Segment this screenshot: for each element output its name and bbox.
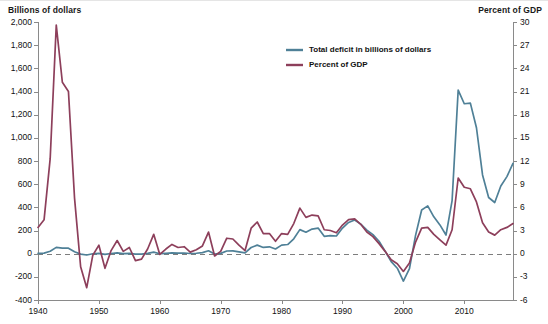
legend-item-label: Total deficit in billions of dollars xyxy=(309,45,431,54)
x-axis-tick-label: 1990 xyxy=(322,306,362,316)
y-axis-tick-label: 1,800 xyxy=(11,40,32,50)
y2-axis-tick-label: -3 xyxy=(520,271,528,281)
y2-axis-tick-label: 12 xyxy=(520,156,529,166)
x-axis-tick-label: 1960 xyxy=(140,306,180,316)
y-axis-tick-label: 1,200 xyxy=(11,109,32,119)
y-axis-tick-label: 1,400 xyxy=(11,86,32,96)
x-axis-tick-label: 1980 xyxy=(262,306,302,316)
y2-axis-tick-label: 3 xyxy=(520,225,525,235)
x-axis-tick-label: 2010 xyxy=(444,306,484,316)
x-axis-tick-label: 1970 xyxy=(201,306,241,316)
y-axis-tick-label: 1,600 xyxy=(11,63,32,73)
x-axis-tick-label: 1940 xyxy=(18,306,58,316)
y-axis-tick-label: 0 xyxy=(27,248,32,258)
y2-axis-tick-label: 6 xyxy=(520,202,525,212)
chart-plot xyxy=(0,0,548,324)
y2-axis-tick-label: 27 xyxy=(520,40,529,50)
y-axis-tick-label: 200 xyxy=(18,225,32,235)
y-axis-tick-label: 400 xyxy=(18,202,32,212)
y2-axis-tick-label: -6 xyxy=(520,295,528,305)
y2-axis-tick-label: 18 xyxy=(520,109,529,119)
y2-axis-tick-label: 9 xyxy=(520,179,525,189)
y2-axis-tick-label: 24 xyxy=(520,63,529,73)
x-axis-tick-label: 2000 xyxy=(383,306,423,316)
figure-container: Billions of dollars Percent of GDP -400-… xyxy=(0,0,548,324)
legend-item-label: Percent of GDP xyxy=(309,60,368,69)
y-axis-tick-label: -200 xyxy=(15,271,32,281)
y-axis-tick-label: 600 xyxy=(18,179,32,189)
y-axis-tick-label: 2,000 xyxy=(11,17,32,27)
y-axis-tick-label: 1,000 xyxy=(11,132,32,142)
y2-axis-tick-label: 30 xyxy=(520,17,529,27)
x-axis-tick-label: 1950 xyxy=(79,306,119,316)
y2-axis-tick-label: 21 xyxy=(520,86,529,96)
y2-axis-tick-label: 15 xyxy=(520,132,529,142)
y-axis-tick-label: 800 xyxy=(18,156,32,166)
y-axis-tick-label: -400 xyxy=(15,295,32,305)
y2-axis-tick-label: 0 xyxy=(520,248,525,258)
